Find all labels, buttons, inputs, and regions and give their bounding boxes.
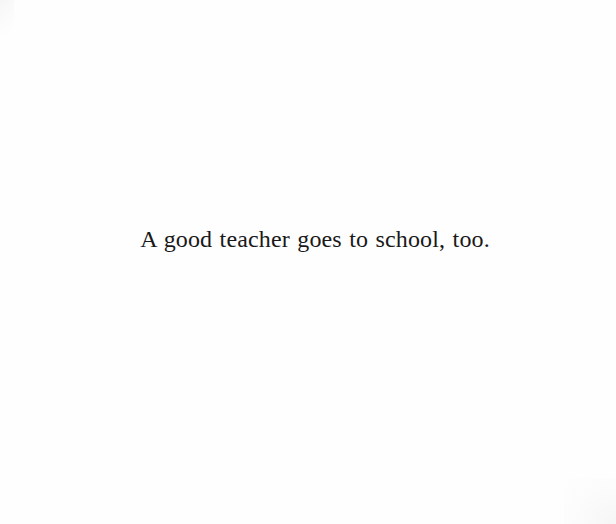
scanned-page: A good teacher goes to school, too. (0, 0, 616, 524)
page-scan-edge-bottom-right (564, 478, 616, 524)
quotation-block: A good teacher goes to school, too. (0, 225, 616, 253)
page-scan-shading (0, 0, 616, 524)
quotation-text: A good teacher goes to school, too. (140, 225, 490, 253)
page-scan-edge-top-left (0, 0, 14, 34)
